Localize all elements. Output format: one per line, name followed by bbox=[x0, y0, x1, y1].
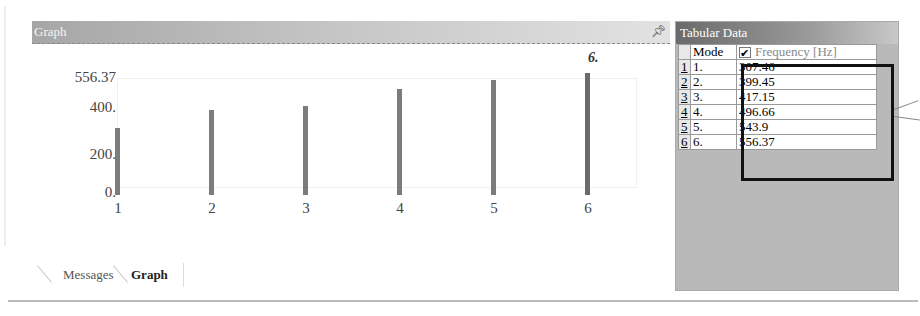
table-header-row: Mode ✔Frequency [Hz] bbox=[679, 45, 877, 60]
tab-messages[interactable]: Messages bbox=[63, 267, 114, 283]
bar-mode-4[interactable] bbox=[397, 89, 402, 195]
mode-cell: 5. bbox=[691, 120, 737, 135]
frequency-bar-chart: 556.37 400. 200. 0. 6. 1 2 3 4 5 6 bbox=[32, 50, 672, 250]
mode-cell: 4. bbox=[691, 105, 737, 120]
bar-mode-5[interactable] bbox=[491, 80, 496, 195]
row-number: 5 bbox=[679, 120, 691, 135]
row-number: 2 bbox=[679, 75, 691, 90]
row-number: 1 bbox=[679, 60, 691, 75]
y-tick: 556.37 bbox=[56, 69, 116, 86]
tab-divider bbox=[183, 263, 184, 287]
x-tick: 1 bbox=[108, 200, 128, 217]
y-tick: 400. bbox=[56, 99, 116, 116]
mode-cell: 6. bbox=[691, 135, 737, 150]
mode-cell: 2. bbox=[691, 75, 737, 90]
mode-cell: 1. bbox=[691, 60, 737, 75]
bar-mode-3[interactable] bbox=[303, 106, 308, 195]
checkbox-checked-icon[interactable]: ✔ bbox=[739, 47, 751, 58]
x-tick: 5 bbox=[484, 200, 504, 217]
x-tick: 4 bbox=[390, 200, 410, 217]
y-tick: 200. bbox=[56, 146, 116, 163]
graph-panel-title: Graph bbox=[34, 24, 67, 40]
x-tick: 6 bbox=[578, 200, 598, 217]
pushpin-icon[interactable]: 📌︎ bbox=[651, 24, 666, 38]
selected-bar-label: 6. bbox=[588, 50, 599, 66]
mode-cell: 3. bbox=[691, 90, 737, 105]
tabular-data-header: Tabular Data bbox=[676, 22, 898, 44]
tab-divider bbox=[113, 265, 128, 282]
y-tick: 0. bbox=[56, 184, 116, 201]
tab-graph[interactable]: Graph bbox=[131, 267, 168, 283]
row-number: 4 bbox=[679, 105, 691, 120]
tab-divider bbox=[37, 265, 52, 282]
corner-cell bbox=[679, 45, 691, 60]
plot-area bbox=[117, 78, 637, 188]
column-header-mode[interactable]: Mode bbox=[691, 45, 737, 60]
bar-mode-1[interactable] bbox=[115, 128, 120, 195]
x-tick: 3 bbox=[296, 200, 316, 217]
frequency-highlight-box bbox=[741, 64, 894, 181]
column-header-frequency[interactable]: ✔Frequency [Hz] bbox=[737, 45, 877, 60]
panel-left-border bbox=[4, 6, 6, 246]
panel-bottom-border bbox=[8, 300, 918, 302]
column-header-frequency-label: Frequency [Hz] bbox=[755, 44, 837, 59]
x-tick: 2 bbox=[202, 200, 222, 217]
tabular-data-title: Tabular Data bbox=[680, 25, 747, 41]
bar-mode-6[interactable] bbox=[585, 73, 590, 195]
graph-panel-header: Graph 📌︎ bbox=[32, 21, 670, 44]
bar-mode-2[interactable] bbox=[209, 110, 214, 195]
row-number: 3 bbox=[679, 90, 691, 105]
row-number: 6 bbox=[679, 135, 691, 150]
